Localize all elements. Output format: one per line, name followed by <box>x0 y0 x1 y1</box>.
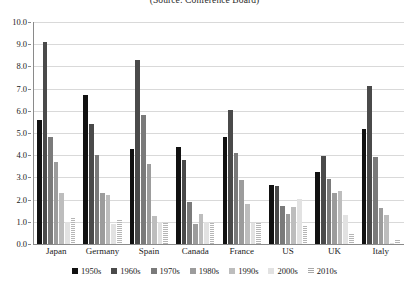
bar <box>176 147 181 244</box>
bar-group <box>126 22 172 244</box>
legend-item[interactable]: 1970s <box>151 266 180 276</box>
legend-item[interactable]: 1960s <box>111 266 140 276</box>
legend-label: 2000s <box>277 266 297 276</box>
bar <box>343 215 348 244</box>
bar <box>130 149 135 244</box>
bar <box>210 223 215 244</box>
bar-group <box>33 22 79 244</box>
bar-group <box>265 22 311 244</box>
bar <box>147 164 152 244</box>
bar <box>269 185 274 244</box>
y-axis-tickmark <box>28 177 31 178</box>
y-axis-tickmark <box>28 222 31 223</box>
y-axis-tickmark <box>28 22 31 23</box>
bar <box>256 223 261 244</box>
x-axis-tick-label: Canada <box>172 246 218 256</box>
y-axis-tickmark <box>28 89 31 90</box>
bar <box>65 222 70 244</box>
bar <box>275 186 280 244</box>
bar <box>332 193 337 244</box>
y-axis-tickmark <box>28 133 31 134</box>
legend-label: 1990s <box>238 266 258 276</box>
legend-item[interactable]: 2000s <box>268 266 297 276</box>
bar <box>48 137 53 244</box>
y-axis-tickmark <box>28 155 31 156</box>
bar <box>182 160 187 244</box>
bar <box>245 204 250 244</box>
bar-groups <box>33 22 404 244</box>
bar <box>303 226 308 244</box>
y-axis-tickmark <box>28 44 31 45</box>
bar <box>43 42 48 244</box>
y-axis-tickmark <box>28 111 31 112</box>
bar <box>251 223 256 244</box>
y-axis-tick-label: 1.0 <box>16 217 27 227</box>
bar-chart: (Source: Conference Board) 10.09.08.07.0… <box>0 0 409 281</box>
bar <box>199 214 204 244</box>
bar <box>59 193 64 244</box>
bar <box>89 124 94 244</box>
bar <box>163 223 168 244</box>
legend-swatch-icon <box>268 268 274 274</box>
bar <box>234 153 239 244</box>
bar <box>349 234 354 244</box>
x-axis-tick-label: France <box>219 246 265 256</box>
bar <box>367 86 372 244</box>
y-axis-tickmark <box>28 200 31 201</box>
y-axis-tick-label: 9.0 <box>16 39 27 49</box>
bar <box>71 218 76 244</box>
legend-swatch-icon <box>72 268 78 274</box>
legend-item[interactable]: 1980s <box>190 266 219 276</box>
bar <box>54 162 59 244</box>
bar <box>193 224 198 244</box>
bar <box>379 208 384 244</box>
bar <box>315 172 320 244</box>
bar <box>37 120 42 244</box>
legend-swatch-icon <box>308 268 314 274</box>
y-axis-tickmark <box>28 244 31 245</box>
plot-area <box>33 22 404 244</box>
bar <box>321 156 326 244</box>
bar <box>297 199 302 245</box>
legend-item[interactable]: 1950s <box>72 266 101 276</box>
x-axis-tick-label: Japan <box>33 246 79 256</box>
legend-item[interactable]: 1990s <box>229 266 258 276</box>
bar <box>141 115 146 244</box>
bar <box>100 193 105 244</box>
gridline <box>33 244 404 245</box>
chart-title: (Source: Conference Board) <box>0 0 409 5</box>
bar <box>384 215 389 244</box>
bar <box>362 129 367 244</box>
bar <box>280 206 285 244</box>
bar <box>111 224 116 244</box>
y-axis-tickmark <box>28 66 31 67</box>
x-axis-tick-label: Spain <box>126 246 172 256</box>
y-axis-tick-label: 4.0 <box>16 150 27 160</box>
x-axis-tick-label: UK <box>311 246 357 256</box>
legend-label: 1970s <box>160 266 180 276</box>
y-axis-tick-label: 2.0 <box>16 195 27 205</box>
legend-label: 1960s <box>120 266 140 276</box>
y-axis-tick-label: 3.0 <box>16 172 27 182</box>
bar <box>135 60 140 244</box>
bar <box>286 214 291 244</box>
y-axis-tick-labels: 10.09.08.07.06.05.04.03.02.01.00.0 <box>0 22 31 244</box>
bar-group <box>311 22 357 244</box>
y-axis-tick-label: 8.0 <box>16 61 27 71</box>
y-axis-tick-label: 10.0 <box>12 17 27 27</box>
legend-item[interactable]: 2010s <box>308 266 337 276</box>
bar-group <box>172 22 218 244</box>
bar <box>152 216 157 244</box>
bar <box>338 191 343 244</box>
x-axis-tick-labels: JapanGermanySpainCanadaFranceUSUKItaly <box>33 246 404 256</box>
bar <box>187 202 192 244</box>
y-axis-tick-label: 5.0 <box>16 128 27 138</box>
x-axis-tick-label: Italy <box>358 246 404 256</box>
bar <box>291 207 296 244</box>
legend-label: 1980s <box>199 266 219 276</box>
x-axis-tick-label: US <box>265 246 311 256</box>
bar-group <box>79 22 125 244</box>
y-axis-tick-label: 0.0 <box>16 239 27 249</box>
bar <box>228 110 233 244</box>
y-axis-tick-label: 7.0 <box>16 84 27 94</box>
